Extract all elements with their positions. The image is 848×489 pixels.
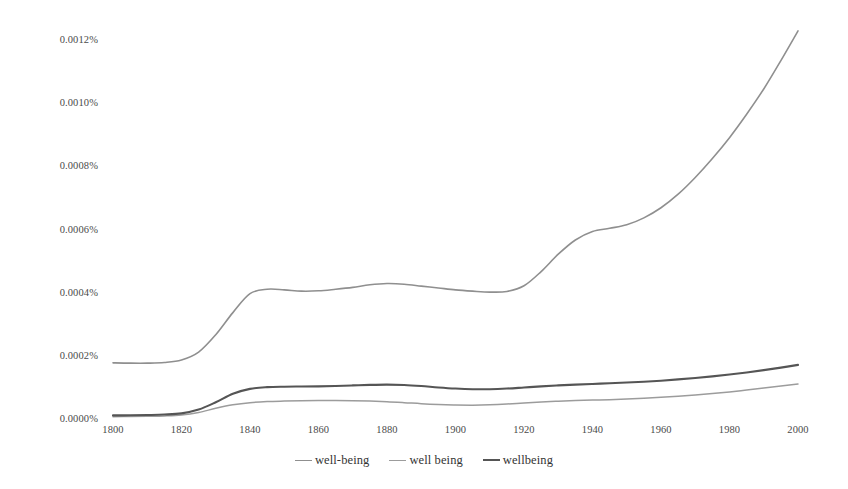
series-layer <box>113 31 798 417</box>
legend-line-swatch-icon <box>389 460 406 461</box>
legend-line-swatch-icon <box>295 460 312 461</box>
legend-label: well-being <box>315 453 369 468</box>
plot-area <box>0 0 848 489</box>
series-line-well-being <box>113 31 798 363</box>
legend-line-swatch-icon <box>483 459 500 461</box>
legend-item-well-being[interactable]: well being <box>389 453 462 468</box>
legend-item-well-being[interactable]: well-being <box>295 453 369 468</box>
legend-label: well being <box>409 453 462 468</box>
chart-legend: well-beingwell beingwellbeing <box>0 449 848 471</box>
ngram-line-chart: 0.0000%0.0002%0.0004%0.0006%0.0008%0.001… <box>0 0 848 489</box>
legend-label: wellbeing <box>503 453 553 468</box>
legend-item-wellbeing[interactable]: wellbeing <box>483 453 553 468</box>
